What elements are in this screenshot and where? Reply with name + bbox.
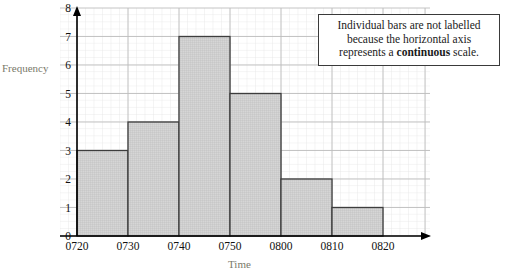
svg-text:0740: 0740 [168, 240, 191, 252]
svg-text:7: 7 [65, 31, 71, 43]
svg-text:1: 1 [65, 202, 71, 214]
svg-text:0820: 0820 [372, 240, 395, 252]
x-tick-labels: 0720 0730 0740 0750 0800 0810 0820 [66, 240, 395, 252]
svg-text:4: 4 [65, 116, 71, 128]
svg-text:0750: 0750 [219, 240, 242, 252]
histogram-chart: Frequency Time [0, 0, 511, 275]
svg-text:0810: 0810 [321, 240, 344, 252]
callout-line-3-pre: represents a [339, 46, 396, 58]
svg-text:3: 3 [65, 145, 71, 157]
callout-line-2: because the horizontal axis [325, 33, 493, 47]
callout-note: Individual bars are not labelled because… [318, 14, 500, 66]
svg-text:2: 2 [65, 173, 71, 185]
callout-line-3: represents a continuous scale. [325, 46, 493, 60]
bar-0720-0730 [77, 151, 128, 237]
bar-0730-0740 [128, 122, 179, 236]
svg-text:6: 6 [65, 59, 71, 71]
bar-0750-0800 [230, 94, 281, 237]
svg-text:0720: 0720 [66, 240, 89, 252]
svg-text:8: 8 [65, 2, 71, 14]
callout-line-3-bold: continuous [397, 46, 451, 58]
bar-0810-0820 [332, 208, 383, 237]
bar-0800-0810 [281, 179, 332, 236]
svg-text:5: 5 [65, 88, 71, 100]
callout-line-3-post: scale. [450, 46, 479, 58]
y-tick-labels: 0 1 2 3 4 5 6 7 8 [65, 2, 71, 242]
svg-text:0800: 0800 [270, 240, 293, 252]
bar-0740-0750 [179, 37, 230, 237]
callout-line-1: Individual bars are not labelled [325, 19, 493, 33]
svg-text:0730: 0730 [117, 240, 140, 252]
